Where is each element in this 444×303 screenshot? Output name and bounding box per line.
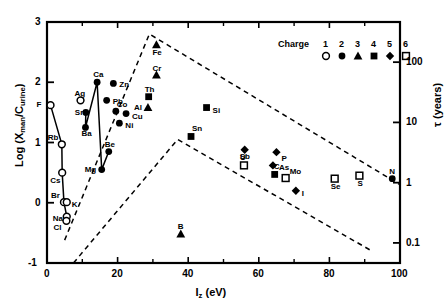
point-label-br: Br bbox=[51, 192, 60, 200]
data-point-th bbox=[145, 93, 152, 100]
data-point-ni bbox=[116, 120, 123, 127]
data-point-i bbox=[292, 187, 300, 195]
point-label-f: F bbox=[37, 101, 42, 109]
data-point-be bbox=[105, 148, 112, 155]
point-label-k: K bbox=[72, 201, 78, 209]
x-tick-label: 100 bbox=[391, 269, 408, 279]
point-label-ca: Ca bbox=[93, 71, 103, 79]
data-point-cu bbox=[123, 110, 130, 117]
data-point-zn bbox=[110, 80, 117, 87]
point-label-na: Na bbox=[53, 215, 63, 223]
point-label-s: S bbox=[357, 180, 362, 188]
data-point-rb bbox=[58, 141, 65, 148]
point-label-cu: Cu bbox=[132, 113, 143, 121]
data-point-sr bbox=[82, 109, 89, 116]
legend-charge-1: 1 bbox=[323, 40, 328, 49]
point-label-al: Al bbox=[134, 104, 142, 112]
point-label-i: I bbox=[302, 190, 304, 198]
x-axis-title: Iz (eV) bbox=[196, 287, 227, 300]
x-tick-label: 40 bbox=[182, 269, 193, 279]
point-label-as: As bbox=[279, 164, 289, 172]
point-label-p: P bbox=[281, 155, 286, 163]
legend-symbol-2 bbox=[339, 53, 346, 60]
x-tick-label: 80 bbox=[323, 269, 334, 279]
y2-axis-title: τ (years) bbox=[432, 83, 443, 127]
x-tick-label: 60 bbox=[253, 269, 264, 279]
data-point-u bbox=[241, 162, 248, 169]
point-label-ba: Ba bbox=[81, 130, 91, 138]
point-label-be: Be bbox=[105, 141, 115, 149]
data-point-si bbox=[203, 104, 210, 111]
point-label-u: U bbox=[240, 154, 246, 162]
point-label-si: Si bbox=[213, 107, 221, 115]
legend-charge-4: 4 bbox=[371, 40, 376, 49]
legend-title: Charge bbox=[278, 40, 309, 49]
scatter-chart bbox=[0, 0, 444, 303]
legend-symbol-5 bbox=[386, 52, 394, 60]
y-tick-label: 1 bbox=[35, 138, 41, 148]
legend-charge-2: 2 bbox=[339, 40, 344, 49]
y2-tick-label: 10 bbox=[406, 117, 417, 127]
point-label-rb: Rb bbox=[48, 134, 59, 142]
data-point-mg bbox=[98, 166, 105, 173]
y2-tick-label: 0.1 bbox=[406, 238, 420, 248]
y-tick-label: 2 bbox=[35, 77, 41, 87]
legend-symbol-4 bbox=[371, 53, 378, 60]
data-point-cs bbox=[59, 169, 66, 176]
data-point-pb bbox=[103, 97, 110, 104]
point-label-zn: Zn bbox=[119, 81, 129, 89]
y-tick-label: 3 bbox=[35, 17, 41, 27]
alkaline-connector-line bbox=[85, 82, 108, 169]
y-tick-label: -1 bbox=[28, 258, 37, 268]
legend-charge-3: 3 bbox=[355, 40, 360, 49]
data-point-f bbox=[47, 102, 54, 109]
legend-symbol-1 bbox=[323, 53, 330, 60]
point-label-cl: Cl bbox=[53, 224, 61, 232]
legend-charge-6: 6 bbox=[403, 40, 408, 49]
point-label-ag: Ag bbox=[75, 90, 86, 98]
data-point-al bbox=[144, 103, 153, 111]
y-tick-label: 0 bbox=[35, 198, 41, 208]
point-label-cr: Cr bbox=[152, 65, 161, 73]
point-label-cs: Cs bbox=[50, 177, 60, 185]
x-tick-label: 0 bbox=[44, 269, 50, 279]
point-label-fe: Fe bbox=[152, 49, 161, 57]
data-point-mo bbox=[282, 175, 289, 182]
data-point-c bbox=[271, 171, 278, 178]
point-label-n: N bbox=[389, 168, 395, 176]
point-label-co: Co bbox=[117, 101, 128, 109]
data-point-cl bbox=[63, 217, 70, 224]
point-label-c: C bbox=[274, 163, 280, 171]
envelope-upper-dashed bbox=[65, 34, 400, 240]
point-label-ni: Ni bbox=[125, 122, 133, 130]
legend-charge-5: 5 bbox=[387, 40, 392, 49]
x-tick-label: 20 bbox=[112, 269, 123, 279]
data-point-ca bbox=[94, 79, 101, 86]
envelope-lower-dashed bbox=[73, 139, 371, 263]
y2-tick-label: 100 bbox=[406, 57, 423, 67]
point-label-sn: Sn bbox=[192, 125, 202, 133]
point-label-se: Se bbox=[331, 183, 341, 191]
data-point-k bbox=[63, 199, 70, 206]
point-label-b: B bbox=[178, 223, 184, 231]
data-point-sn bbox=[188, 133, 195, 140]
data-point-n bbox=[389, 175, 396, 182]
point-label-th: Th bbox=[145, 86, 155, 94]
legend-symbol-3 bbox=[354, 51, 363, 59]
point-label-mo: Mo bbox=[290, 168, 302, 176]
data-point-p bbox=[272, 148, 280, 156]
y2-tick-label: 1 bbox=[406, 178, 412, 188]
point-label-mg: Mg bbox=[85, 166, 97, 174]
y-axis-title: Log (Xman/Curine) bbox=[14, 83, 27, 167]
point-label-sr: Sr bbox=[75, 109, 83, 117]
